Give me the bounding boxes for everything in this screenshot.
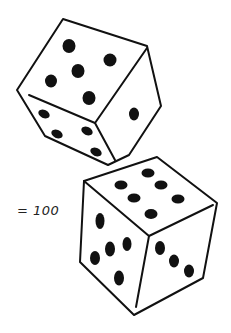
pip [63,39,76,53]
dice-illustration: = 100 [0,0,231,333]
equation-label: = 100 [17,203,59,218]
bottom-die [80,157,217,315]
dice-drawing [0,0,231,333]
